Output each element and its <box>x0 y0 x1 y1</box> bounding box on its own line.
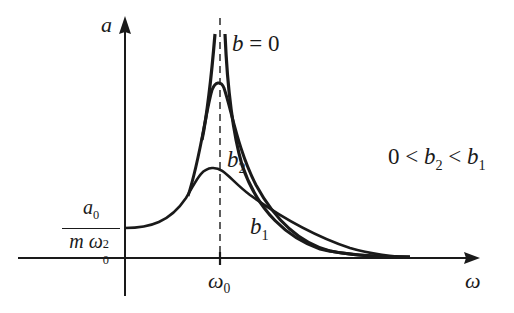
curve-label-b1: b1 <box>250 215 269 242</box>
curve-label-b2: b2 <box>227 148 246 175</box>
x-axis <box>18 252 480 264</box>
y-axis <box>119 16 131 296</box>
y-axis-label: a <box>101 14 112 36</box>
fraction-bar <box>62 228 120 229</box>
damping-inequality-annotation: 0 < b2 < b1 <box>388 145 486 172</box>
y-axis-arrow-icon <box>119 16 131 34</box>
fraction-denominator: m ω20 <box>62 231 120 251</box>
x-axis-arrow-icon <box>464 252 480 264</box>
y-intercept-label: a0 m ω20 <box>62 197 120 251</box>
x-axis-label: ω <box>465 270 481 292</box>
omega0-tick-label: ω0 <box>208 270 230 296</box>
fraction-numerator: a0 <box>62 197 120 225</box>
curve-label-b0: b = 0 <box>232 32 279 55</box>
